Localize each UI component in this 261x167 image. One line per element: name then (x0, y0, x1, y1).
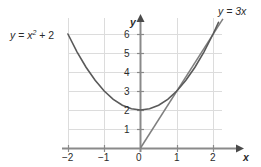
graph-figure: 6 5 4 3 2 1 −2 −1 0 1 2 y x y = x2 + 2 y… (0, 0, 261, 167)
x-tick-label-0: 0 (136, 153, 142, 163)
parabola-label: y = x2 + 2 (10, 30, 54, 41)
line-label: y = 3x (218, 6, 246, 17)
x-tick-label-minus-2: −2 (62, 153, 73, 163)
x-tick-label-2: 2 (210, 153, 216, 163)
parabola-label-exponent: 2 (32, 29, 36, 36)
plot-background (68, 18, 222, 148)
x-axis-title: x (243, 152, 249, 163)
parabola-label-tail: + 2 (39, 29, 54, 41)
y-tick-label-4: 4 (124, 68, 130, 78)
y-axis-title: y (130, 17, 136, 28)
y-tick-label-5: 5 (124, 49, 130, 59)
y-tick-label-2: 2 (124, 106, 130, 116)
x-tick-label-minus-1: −1 (98, 153, 109, 163)
y-tick-label-3: 3 (124, 87, 130, 97)
y-tick-label-6: 6 (124, 30, 130, 40)
parabola-label-eq: = (18, 29, 24, 41)
x-tick-label-1: 1 (174, 153, 180, 163)
y-tick-label-1: 1 (124, 125, 130, 135)
